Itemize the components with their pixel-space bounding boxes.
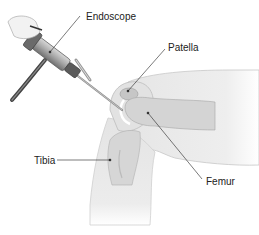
label-femur: Femur — [206, 176, 235, 187]
knee-arthroscopy-illustration — [0, 0, 259, 235]
label-patella: Patella — [168, 42, 199, 53]
label-tibia: Tibia — [34, 155, 55, 166]
label-endoscope: Endoscope — [86, 11, 136, 22]
endoscope-instrument — [8, 16, 122, 110]
